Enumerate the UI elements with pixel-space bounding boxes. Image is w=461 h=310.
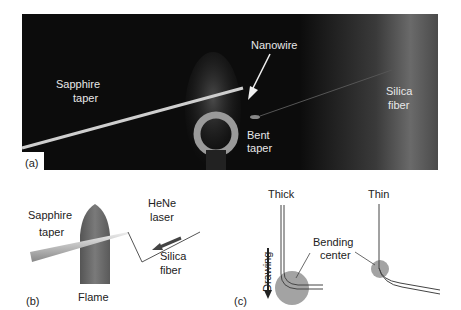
- panel-b-schematic: Sapphire taper HeNe laser Silica fiber F…: [26, 197, 200, 307]
- thin-fiber-line-1: [379, 204, 440, 290]
- label-bending-1: Bending: [313, 236, 353, 248]
- label-b-silica-1: Silica: [160, 250, 187, 262]
- label-sapphire-taper-1: Sapphire: [56, 78, 100, 90]
- bending-circle-thin: [371, 260, 389, 278]
- panel-a-photo: Sapphire taper Nanowire Silica fiber Ben…: [22, 14, 438, 170]
- laser-arrow: [160, 238, 181, 247]
- label-thick: Thick: [268, 188, 295, 200]
- panel-label-c: (c): [234, 295, 247, 307]
- bending-pointer-thick: [296, 253, 310, 278]
- label-silica-fiber-2: fiber: [388, 99, 410, 111]
- label-nanowire: Nanowire: [251, 39, 297, 51]
- figure: Sapphire taper Nanowire Silica fiber Ben…: [0, 0, 461, 310]
- label-bent-taper-1: Bent: [247, 129, 270, 141]
- label-thin: Thin: [368, 188, 389, 200]
- bending-pointer-thin: [355, 252, 375, 265]
- label-sapphire-taper-2: taper: [73, 92, 98, 104]
- label-silica-fiber-1: Silica: [386, 85, 413, 97]
- panel-label-a: (a): [25, 157, 38, 169]
- label-bent-taper-2: taper: [247, 142, 272, 154]
- label-b-sapphire-1: Sapphire: [28, 209, 72, 221]
- label-bending-2: center: [320, 249, 351, 261]
- label-b-laser-2: laser: [150, 211, 174, 223]
- label-b-flame: Flame: [78, 291, 109, 303]
- label-drawing: Drawing: [261, 252, 273, 292]
- panel-label-b: (b): [26, 295, 39, 307]
- panel-c-schematic: Thick Thin Bending center Drawing (c): [234, 188, 440, 307]
- label-b-sapphire-2: taper: [39, 226, 64, 238]
- label-b-silica-2: fiber: [160, 264, 182, 276]
- label-b-laser-1: HeNe: [148, 197, 176, 209]
